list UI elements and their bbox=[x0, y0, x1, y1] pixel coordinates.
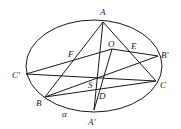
line-segments bbox=[26, 22, 158, 110]
label-α: α bbox=[62, 109, 67, 119]
segment-A-B bbox=[45, 22, 103, 97]
label-C: C bbox=[160, 80, 167, 90]
label-D: D bbox=[98, 91, 106, 101]
geometry-diagram: AOEB′FC′SCDBαA′ bbox=[0, 0, 181, 129]
label-A′: A′ bbox=[87, 117, 96, 127]
label-E: E bbox=[130, 41, 137, 51]
label-B: B bbox=[36, 98, 42, 108]
label-S: S bbox=[88, 80, 93, 90]
label-O: O bbox=[108, 39, 115, 49]
point-labels: AOEB′FC′SCDBαA′ bbox=[12, 7, 169, 127]
label-A: A bbox=[99, 7, 106, 17]
label-F: F bbox=[67, 49, 74, 59]
label-C′: C′ bbox=[12, 70, 21, 80]
label-B′: B′ bbox=[161, 50, 169, 60]
